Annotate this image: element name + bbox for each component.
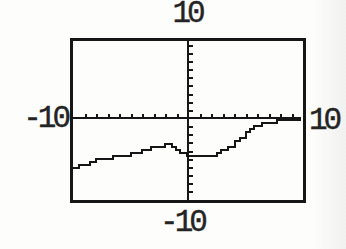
window-xmax-label: 10 [309, 105, 338, 137]
window-xmin-label: -10 [23, 103, 67, 135]
calculator-graph-figure: 10 -10 10 -10 [0, 0, 346, 249]
window-ymin-label: -10 [160, 207, 204, 239]
window-ymax-label: 10 [172, 0, 201, 30]
